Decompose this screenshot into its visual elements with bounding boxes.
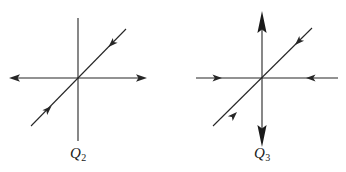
diagram-q3 [196,11,338,147]
q3-vertical-axis [257,11,266,147]
diagram-label-q3-text: Q [254,145,265,161]
q3-diagonal-arrow-lower-left-icon [228,110,240,122]
diagram-label-q2: Q2 [70,146,86,161]
figure-canvas [0,0,346,172]
diagram-label-q3: Q3 [254,146,270,161]
diagram-q2 [9,18,147,141]
diagram-label-q3-subscript: 3 [265,152,270,163]
diagram-label-q2-text: Q [70,145,81,161]
q3-horizontal-axis [196,75,338,82]
diagram-label-q2-subscript: 2 [81,152,86,163]
